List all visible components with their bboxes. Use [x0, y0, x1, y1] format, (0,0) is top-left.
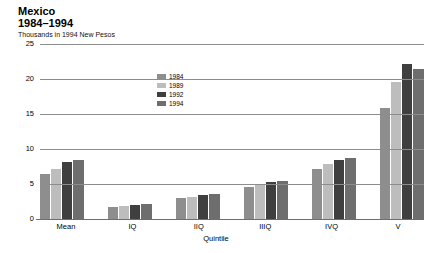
- chart-page: Mexico 1984–1994 Thousands in 1994 New P…: [0, 0, 432, 253]
- legend-item-1992[interactable]: 1992: [157, 91, 183, 98]
- bar-1984-ivq[interactable]: [312, 169, 323, 219]
- chart-title-block: Mexico 1984–1994: [18, 6, 73, 29]
- plot-area: [40, 44, 424, 219]
- legend-swatch-icon-1984: [157, 74, 166, 79]
- bar-1984-iiq[interactable]: [176, 198, 187, 219]
- bar-1984-v[interactable]: [380, 108, 391, 219]
- bar-1992-ivq[interactable]: [334, 160, 345, 220]
- bar-1992-v[interactable]: [402, 64, 413, 219]
- bar-1984-iiiq[interactable]: [244, 187, 255, 219]
- legend-label-1994: 1994: [169, 100, 183, 107]
- gridline-15: [40, 114, 424, 115]
- bar-1984-mean[interactable]: [40, 174, 51, 219]
- bar-groups: [40, 44, 424, 219]
- y-tick-label: 0: [4, 215, 34, 223]
- bar-1989-ivq[interactable]: [323, 164, 334, 219]
- bar-1992-iq[interactable]: [130, 205, 141, 219]
- x-tick-label-v: V: [372, 222, 424, 234]
- bar-group-iiq: [176, 44, 220, 219]
- bar-1989-mean[interactable]: [51, 169, 62, 219]
- bar-1994-mean[interactable]: [73, 160, 84, 219]
- gridline-25: [40, 44, 424, 45]
- bar-1994-v[interactable]: [413, 69, 424, 220]
- bar-group-iiiq: [244, 44, 288, 219]
- x-axis-title: Quintile: [0, 234, 432, 243]
- bar-group-mean: [40, 44, 84, 219]
- gridline-5: [40, 184, 424, 185]
- legend-item-1984[interactable]: 1984: [157, 73, 183, 80]
- bar-1994-ivq[interactable]: [345, 158, 356, 219]
- legend-item-1989[interactable]: 1989: [157, 82, 183, 89]
- bar-1994-iiiq[interactable]: [277, 181, 288, 219]
- legend-label-1989: 1989: [169, 82, 183, 89]
- x-tick-label-ivq: IVQ: [306, 222, 358, 234]
- legend-label-1984: 1984: [169, 73, 183, 80]
- chart-legend: 1984198919921994: [157, 73, 183, 109]
- bar-1989-v[interactable]: [391, 82, 402, 219]
- y-tick-label: 20: [4, 75, 34, 83]
- y-tick-label: 10: [4, 145, 34, 153]
- y-tick-label: 5: [4, 180, 34, 188]
- legend-label-1992: 1992: [169, 91, 183, 98]
- gridline-10: [40, 149, 424, 150]
- bar-1992-iiiq[interactable]: [266, 182, 277, 219]
- x-axis-line: [36, 219, 424, 220]
- x-tick-label-iiq: IIQ: [173, 222, 225, 234]
- y-axis-tick-labels: 0510152025: [4, 44, 34, 219]
- bar-1989-iiq[interactable]: [187, 197, 198, 219]
- bar-1984-iq[interactable]: [108, 207, 119, 219]
- bar-1989-iiiq[interactable]: [255, 184, 266, 219]
- legend-swatch-icon-1992: [157, 92, 166, 97]
- bar-1994-iq[interactable]: [141, 204, 152, 219]
- y-tick-label: 15: [4, 110, 34, 118]
- bar-1992-iiq[interactable]: [198, 195, 209, 220]
- legend-swatch-icon-1994: [157, 101, 166, 106]
- chart-subtitle: Thousands in 1994 New Pesos: [18, 31, 115, 39]
- page-title-line-2: 1984–1994: [18, 18, 73, 30]
- gridline-20: [40, 79, 424, 80]
- legend-swatch-icon-1989: [157, 83, 166, 88]
- x-tick-label-iq: IQ: [106, 222, 158, 234]
- bar-1989-iq[interactable]: [119, 206, 130, 219]
- x-tick-label-mean: Mean: [40, 222, 92, 234]
- bar-group-ivq: [312, 44, 356, 219]
- x-axis-tick-labels: MeanIQIIQIIIQIVQV: [40, 222, 424, 234]
- page-title-line-1: Mexico: [18, 6, 73, 18]
- bar-1994-iiq[interactable]: [209, 194, 220, 219]
- legend-item-1994[interactable]: 1994: [157, 100, 183, 107]
- y-tick-label: 25: [4, 40, 34, 48]
- bar-1992-mean[interactable]: [62, 162, 73, 219]
- x-tick-label-iiiq: IIIQ: [239, 222, 291, 234]
- bar-group-v: [380, 44, 424, 219]
- bar-group-iq: [108, 44, 152, 219]
